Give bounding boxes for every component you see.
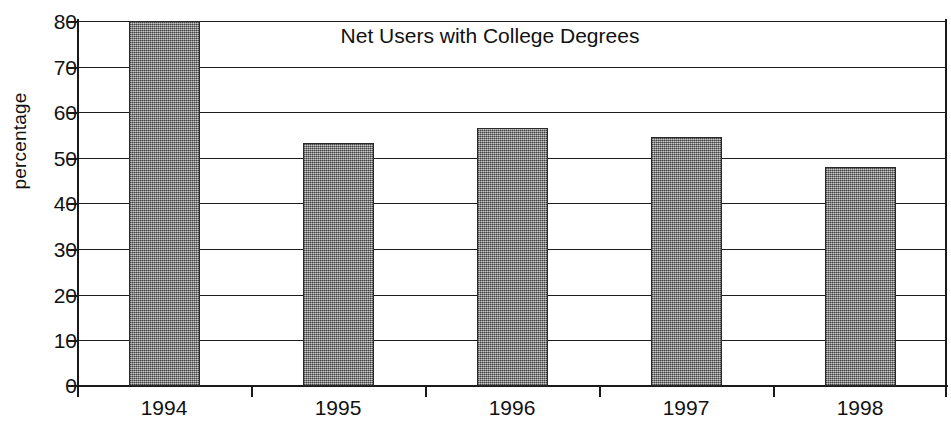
x-tick-mark-5 — [945, 387, 947, 397]
x-tick-label-1996: 1996 — [452, 396, 572, 420]
bar-1998 — [825, 167, 896, 386]
y-tick-mark-80 — [68, 21, 78, 23]
bar-1996 — [477, 128, 548, 386]
y-tick-mark-30 — [68, 249, 78, 251]
gridline-80 — [77, 21, 947, 22]
y-tick-mark-10 — [68, 340, 78, 342]
x-tick-mark-0 — [77, 387, 79, 397]
x-tick-label-1994: 1994 — [104, 396, 224, 420]
y-tick-mark-20 — [68, 295, 78, 297]
x-tick-mark-2 — [425, 387, 427, 397]
x-tick-label-1995: 1995 — [278, 396, 398, 420]
x-tick-label-1997: 1997 — [626, 396, 746, 420]
gridline-70 — [77, 67, 947, 68]
y-tick-mark-60 — [68, 112, 78, 114]
gridline-60 — [77, 112, 947, 113]
chart-title: Net Users with College Degrees — [300, 24, 680, 48]
bar-chart: percentage Net Users with College Degree… — [0, 0, 951, 424]
x-tick-mark-3 — [599, 387, 601, 397]
bar-1995 — [303, 143, 374, 386]
bar-1997 — [651, 137, 722, 386]
y-tick-mark-70 — [68, 67, 78, 69]
y-tick-mark-50 — [68, 158, 78, 160]
y-tick-mark-40 — [68, 203, 78, 205]
x-tick-mark-4 — [773, 387, 775, 397]
bar-1994 — [129, 21, 200, 386]
x-tick-label-1998: 1998 — [800, 396, 920, 420]
x-tick-mark-1 — [251, 387, 253, 397]
